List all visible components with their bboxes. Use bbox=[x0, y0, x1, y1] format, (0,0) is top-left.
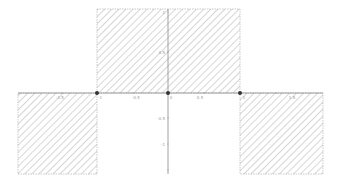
x-tick-label: -0.5 bbox=[132, 95, 140, 100]
region-lower-left bbox=[18, 93, 97, 174]
point-x-1 bbox=[238, 91, 242, 95]
y-tick-label: -1 bbox=[161, 142, 165, 147]
point-origin bbox=[166, 91, 170, 95]
y-tick-label: 0.5 bbox=[159, 50, 166, 55]
x-tick-label: 1.5 bbox=[289, 95, 296, 100]
x-tick-label: -1.5 bbox=[56, 95, 64, 100]
point-x-neg1 bbox=[95, 91, 99, 95]
x-tick-label: -1 bbox=[98, 95, 102, 100]
shaded-region-plot: -1.5 -1 -0.5 0 0.5 1 1.5 1 0.5 -0.5 -1 bbox=[0, 0, 342, 186]
x-tick-label: 0 bbox=[170, 95, 173, 100]
x-tick-label: 1 bbox=[243, 95, 246, 100]
y-tick-label: -0.5 bbox=[157, 116, 165, 121]
x-tick-label: 0.5 bbox=[197, 95, 204, 100]
region-lower-right bbox=[240, 93, 323, 174]
region-upper-middle bbox=[97, 9, 240, 93]
